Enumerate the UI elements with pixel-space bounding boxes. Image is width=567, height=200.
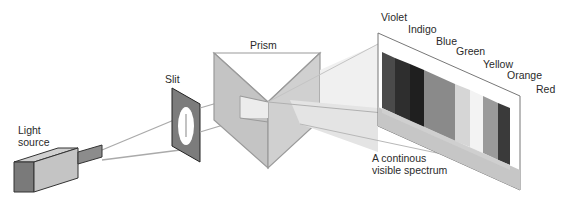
prism-label: Prism [250, 39, 277, 51]
light-source-label: Light source [18, 124, 50, 148]
color-label-violet: Violet [381, 11, 407, 23]
spectrum-label: A continous visible spectrum [372, 152, 447, 176]
spectrum-label-line1: A continous [372, 152, 426, 164]
color-label-green: Green [456, 45, 485, 57]
color-label-orange: Orange [507, 69, 542, 81]
color-label-indigo: Indigo [408, 23, 437, 35]
slit-label: Slit [165, 73, 180, 85]
color-label-red: Red [536, 83, 555, 95]
light-source-label-line2: source [18, 136, 50, 148]
color-label-blue: Blue [436, 35, 457, 47]
diagram-graphic [0, 0, 567, 200]
light-source-label-line1: Light [18, 124, 41, 136]
spectrum-label-line2: visible spectrum [372, 164, 447, 176]
light-source [14, 145, 102, 192]
prism-dispersion-diagram: Light source Slit Prism A continous visi… [0, 0, 567, 200]
